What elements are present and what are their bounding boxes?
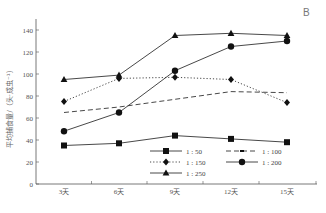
y-tick-label: 20 — [26, 159, 34, 167]
y-tick-label: 80 — [26, 93, 34, 101]
line-chart: B 平均捕食量/（头·成虫⁻¹） 0204060801001201403天6天9… — [0, 0, 326, 213]
legend-label: 1 : 200 — [262, 159, 282, 167]
triangle-marker — [228, 30, 235, 36]
legend-label: 1 : 250 — [186, 170, 206, 178]
y-tick-label: 0 — [30, 181, 34, 189]
square-marker — [228, 136, 234, 142]
dash-marker — [240, 150, 244, 152]
series-1100 — [64, 92, 287, 113]
circle-marker — [239, 159, 245, 165]
series-1200 — [61, 38, 290, 135]
legend-label: 1 : 150 — [186, 159, 206, 167]
x-tick-label: 3天 — [59, 188, 70, 196]
square-marker — [172, 133, 178, 139]
circle-marker — [172, 68, 178, 74]
axes: 0204060801001201403天6天9天12天15天 — [23, 19, 318, 196]
legend-item: 1 : 250 — [150, 169, 206, 177]
circle-marker — [284, 38, 290, 44]
series-line — [64, 92, 287, 113]
square-marker — [61, 143, 67, 149]
panel-label: B — [303, 7, 310, 18]
y-tick-label: 140 — [23, 27, 34, 35]
series-150 — [61, 133, 290, 149]
triangle-marker — [163, 169, 170, 175]
series-line — [64, 41, 287, 131]
y-tick-label: 60 — [26, 115, 34, 123]
legend-item: 1 : 100 — [226, 148, 282, 156]
x-tick-label: 12天 — [224, 188, 238, 196]
y-tick-label: 40 — [26, 137, 34, 145]
legend-item: 1 : 150 — [150, 159, 206, 167]
square-marker — [116, 140, 122, 146]
legend: 1 : 501 : 1001 : 1501 : 2001 : 250 — [150, 148, 282, 178]
diamond-marker — [172, 74, 178, 81]
x-tick-label: 6天 — [114, 188, 125, 196]
square-marker — [284, 139, 290, 145]
circle-marker — [228, 43, 234, 49]
legend-item: 1 : 50 — [150, 148, 202, 156]
square-marker — [163, 148, 169, 154]
y-axis-label: 平均捕食量/（头·成虫⁻¹） — [5, 66, 14, 147]
legend-label: 1 : 50 — [186, 148, 202, 156]
series-1250 — [61, 30, 291, 82]
triangle-marker — [116, 72, 123, 78]
diamond-marker — [61, 98, 67, 105]
circle-marker — [61, 128, 67, 134]
y-tick-label: 120 — [23, 49, 34, 57]
diamond-marker — [163, 159, 169, 166]
diamond-marker — [228, 76, 234, 83]
legend-item: 1 : 200 — [226, 159, 282, 167]
circle-marker — [116, 109, 122, 115]
x-tick-label: 9天 — [170, 188, 181, 196]
series-group — [61, 30, 291, 149]
legend-label: 1 : 100 — [262, 148, 282, 156]
x-tick-label: 15天 — [280, 188, 294, 196]
y-tick-label: 100 — [23, 71, 34, 79]
series-1150 — [61, 74, 290, 106]
diamond-marker — [284, 99, 290, 106]
